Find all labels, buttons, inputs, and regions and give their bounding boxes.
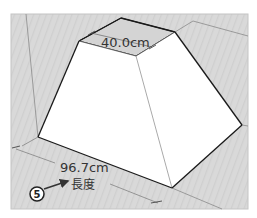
step-badge-number: 5: [34, 189, 41, 200]
measure-label: 長度: [71, 177, 95, 192]
model-viewport[interactable]: 40.0cm 96.7cm 長度 5: [0, 0, 257, 218]
top-dimension-label[interactable]: 40.0cm: [101, 35, 150, 50]
step-badge: 5: [30, 187, 44, 201]
bottom-dimension-label[interactable]: 96.7cm: [60, 160, 109, 175]
